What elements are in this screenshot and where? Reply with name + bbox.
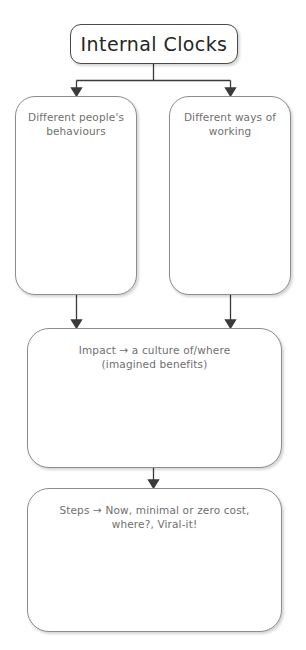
node-steps[interactable]: Steps → Now, minimal or zero cost, where… [27,488,282,632]
node-label-line1: Different people's [28,111,124,123]
node-label: Different people's behaviours [16,110,136,138]
node-label-line2: working [209,125,252,137]
node-label: Different ways of working [170,110,290,138]
node-label-line1: Impact → a culture of/where [79,344,231,356]
diagram-canvas: Internal Clocks Different people's behav… [0,0,306,650]
node-label-line2: where?, Viral-it! [112,518,198,530]
node-label-line2: behaviours [46,125,106,137]
node-different-people-behaviours[interactable]: Different people's behaviours [15,96,137,295]
node-title-label: Internal Clocks [81,35,228,54]
node-internal-clocks[interactable]: Internal Clocks [70,24,238,64]
node-label-line2: (imagined benefits) [102,358,208,370]
node-impact[interactable]: Impact → a culture of/where (imagined be… [27,328,282,468]
node-label: Impact → a culture of/where (imagined be… [28,343,281,371]
node-different-ways-of-working[interactable]: Different ways of working [169,96,291,295]
node-label-line1: Steps → Now, minimal or zero cost, [59,504,249,516]
node-label-line1: Different ways of [184,111,276,123]
node-label: Steps → Now, minimal or zero cost, where… [28,503,281,531]
